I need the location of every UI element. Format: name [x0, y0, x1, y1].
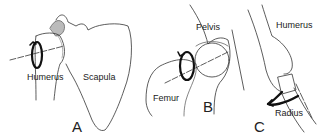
label-humerus-c: Humerus — [276, 20, 313, 30]
label-scapula: Scapula — [83, 72, 116, 82]
joint-rotation-diagram — [0, 0, 321, 139]
panel-letter-a: A — [72, 118, 82, 135]
label-humerus-a: Humerus — [27, 72, 64, 82]
label-pelvis: Pelvis — [196, 22, 220, 32]
panel-letter-c: C — [254, 118, 265, 135]
label-radius: Radius — [275, 108, 303, 118]
panel-letter-b: B — [203, 98, 213, 115]
label-femur: Femur — [153, 93, 179, 103]
